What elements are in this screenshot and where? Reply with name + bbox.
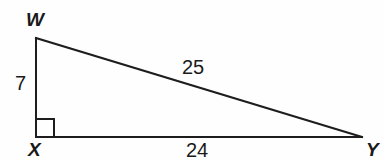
vertex-label-x: X [27, 139, 42, 160]
side-length-wy: 25 [182, 56, 204, 78]
right-angle-square-icon [36, 119, 54, 137]
diagram-canvas: W X Y 7 24 25 [0, 0, 384, 161]
triangle-side-wy [36, 38, 362, 137]
side-length-xy: 24 [186, 139, 208, 161]
vertex-label-w: W [26, 9, 46, 30]
vertex-label-y: Y [366, 139, 381, 160]
side-length-wx: 7 [15, 72, 26, 94]
right-triangle-figure: W X Y 7 24 25 [0, 0, 384, 161]
